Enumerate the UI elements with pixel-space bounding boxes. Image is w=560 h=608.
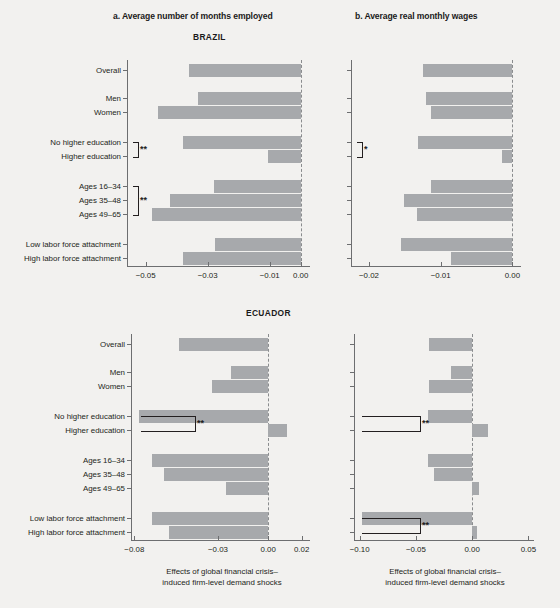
significance-bracket [141,416,196,432]
category-label: Men [0,94,121,103]
bar [164,468,269,481]
x-axis-tick-label: −0.01 [431,271,451,280]
bar [434,468,472,481]
panel-b-title: b. Average real monthly wages [355,11,478,21]
significance-bracket [362,518,421,534]
bar [417,208,512,221]
zero-reference-line [512,60,513,266]
bar [212,380,268,393]
y-axis-tick [347,200,351,201]
bar [423,64,512,77]
axis-caption-left-line1: Effects of global financial crisis– [162,567,281,578]
x-axis-tick [218,536,219,540]
panel-a-title: a. Average number of months employed [113,11,273,21]
axis-caption-left-line2: induced firm-level demand shocks [162,578,281,589]
significance-marker: ** [140,145,147,154]
chart-ecuador-months: −0.08−0.030.000.02** [131,334,310,540]
category-label: Women [0,382,125,391]
category-label: Higher education [0,426,125,435]
y-axis-tick [347,98,351,99]
y-axis-tick [350,430,354,431]
x-axis-tick [441,262,442,266]
bar [431,106,513,119]
axis-caption-left: Effects of global financial crisis– indu… [162,567,281,588]
x-axis-tick [208,262,209,266]
x-axis-tick [416,536,417,540]
category-label: Ages 49–65 [0,484,125,493]
y-axis-tick [123,244,127,245]
y-axis-tick [127,460,131,461]
bar [152,512,268,525]
y-axis-tick [127,488,131,489]
y-axis-tick [123,142,127,143]
y-axis-tick [347,156,351,157]
zero-reference-line [472,334,473,540]
axis-caption-right-line2: induced firm-level demand shocks [385,578,504,589]
y-axis-tick [123,70,127,71]
y-axis-tick [127,518,131,519]
bar [451,252,513,265]
significance-bracket [133,186,139,216]
bar [472,424,488,437]
y-axis-tick [127,474,131,475]
chart-brazil-months: −0.05−0.03−0.010.00**** [127,60,310,266]
y-axis-tick [347,70,351,71]
bar [429,338,472,351]
category-label: Ages 16–34 [0,456,125,465]
category-label: Ages 35–48 [0,196,121,205]
y-axis-tick [347,214,351,215]
y-axis-tick [123,258,127,259]
x-axis-tick [301,262,302,266]
x-axis-tick [360,536,361,540]
x-axis-tick [270,262,271,266]
bar [428,454,472,467]
x-axis-line [131,540,310,541]
y-axis-tick [123,156,127,157]
category-label: Overall [0,66,121,75]
bar [152,454,268,467]
bar [198,92,300,105]
x-axis-tick [268,536,269,540]
x-axis-tick [146,262,147,266]
axis-caption-right: Effects of global financial crisis– indu… [385,567,504,588]
x-axis-tick-label: −0.10 [350,545,370,554]
category-label: High labor force attachment [0,528,125,537]
x-axis-line [127,266,310,267]
x-axis-tick-label: −0.02 [359,271,379,280]
bar [215,238,300,251]
y-axis-line [131,334,132,540]
y-axis-tick [350,488,354,489]
bar [170,194,300,207]
bar [158,106,301,119]
x-axis-tick-label: −0.03 [208,545,228,554]
country-title-brazil: BRAZIL [193,32,226,42]
significance-marker: ** [422,419,429,428]
category-label: Women [0,108,121,117]
x-axis-line [351,266,521,267]
y-axis-tick [123,214,127,215]
category-label: Low labor force attachment [0,514,125,523]
bar [429,380,472,393]
y-axis-tick [347,112,351,113]
y-axis-tick [347,258,351,259]
significance-marker: ** [140,196,147,205]
bar [152,208,301,221]
y-axis-line [351,60,352,266]
y-axis-tick [347,142,351,143]
x-axis-tick-label: 0.00 [293,271,308,280]
x-axis-tick [134,536,135,540]
bar [179,338,269,351]
bar [472,482,479,495]
bar [404,194,512,207]
bar [183,252,301,265]
x-axis-tick-label: −0.01 [260,271,280,280]
x-axis-tick-label: 0.05 [521,545,536,554]
significance-bracket [362,416,421,432]
y-axis-tick [347,186,351,187]
significance-bracket [357,142,363,158]
y-axis-tick [350,518,354,519]
y-axis-tick [350,460,354,461]
chart-brazil-wages: −0.02−0.010.00* [351,60,521,266]
x-axis-tick-label: −0.05 [136,271,156,280]
significance-bracket [133,142,139,158]
